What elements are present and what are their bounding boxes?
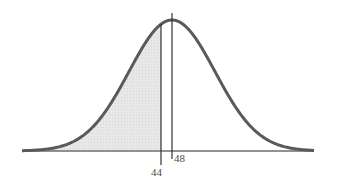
shaded-left-tail [22, 24, 161, 151]
normal-curve [22, 20, 314, 151]
normal-curve-chart: 48 44 [0, 0, 337, 188]
cutoff-label: 44 [151, 166, 163, 178]
mean-label: 48 [174, 152, 186, 164]
